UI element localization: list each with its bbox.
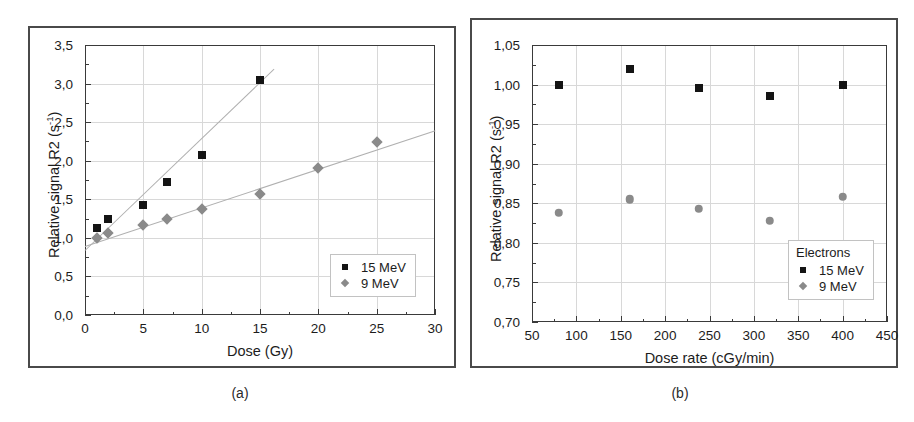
x-tick-label: 25 [369,321,384,336]
data-point-9-mev [625,195,634,204]
y-tick-label: 3,0 [54,76,73,91]
data-point-15-mev [766,92,774,100]
legend-title: Electrons [796,245,864,260]
y-tick-minor [532,65,536,66]
x-tick-label: 30 [427,321,442,336]
x-tick-minor [348,312,349,316]
x-tick-minor [687,319,688,323]
data-point-15-mev [139,201,147,209]
panel-a-plot-area: 0,00,51,01,52,02,53,03,5051015202530Dose… [30,28,454,366]
panel-a: 0,00,51,01,52,02,53,03,5051015202530Dose… [28,26,456,368]
caption-panel-b: (b) [671,385,688,401]
legend-item[interactable]: 9 MeV [338,275,406,291]
x-tick-major [85,309,86,315]
y-tick-minor [532,223,536,224]
legend-item[interactable]: 15 MeV [796,262,864,278]
y-axis-title: Relative signal R2 (s-1) [486,115,504,261]
y-tick-major [85,315,91,316]
x-tick-minor [406,312,407,316]
data-point-15-mev [839,81,847,89]
x-tick-major [754,316,755,322]
y-tick-major [85,238,91,239]
x-tick-label: 10 [194,321,209,336]
x-tick-major [798,316,799,322]
legend-label: 15 MeV [819,263,864,278]
y-tick-major [532,124,538,125]
legend-marker-icon [338,280,352,286]
x-tick-minor [231,312,232,316]
y-tick-major [532,45,538,46]
x-tick-label: 200 [654,328,677,343]
x-tick-minor [599,319,600,323]
y-tick-major [532,164,538,165]
x-tick-label: 350 [787,328,810,343]
y-tick-minor [85,296,89,297]
y-tick-major [532,203,538,204]
y-tick-label: 1,05 [494,38,520,53]
caption-panel-a: (a) [231,385,248,401]
y-tick-minor [532,184,536,185]
y-tick-label: 0,5 [54,269,73,284]
legend-label: 9 MeV [361,276,399,291]
legend-label: 9 MeV [819,279,857,294]
y-axis-title-superscript: -1 [44,117,55,125]
x-tick-minor [865,319,866,323]
data-point-15-mev [198,151,206,159]
figure-root: 0,00,51,01,52,02,53,03,5051015202530Dose… [0,0,914,422]
x-tick-major [665,316,666,322]
legend-marker-icon [338,264,352,270]
y-tick-label: 3,5 [54,38,73,53]
data-point-15-mev [256,76,264,84]
x-tick-label: 5 [140,321,148,336]
y-axis-title: Relative signal R2 (s-1) [44,112,62,258]
x-tick-label: 0 [81,321,89,336]
x-tick-minor [173,312,174,316]
y-tick-minor [532,302,536,303]
y-tick-minor [85,219,89,220]
data-point-9-mev [554,209,563,218]
data-point-9-mev [695,205,704,214]
y-tick-minor [85,64,89,65]
x-tick-major [435,309,436,315]
y-tick-major [532,243,538,244]
x-tick-major [887,316,888,322]
y-tick-major [85,45,91,46]
x-tick-major [843,316,844,322]
x-tick-major [202,309,203,315]
x-tick-label: 15 [252,321,267,336]
panel-b-plot-area: 0,700,750,800,850,900,951,001,0550100150… [472,20,896,366]
legend-marker-icon [796,267,810,273]
y-tick-major [532,85,538,86]
data-point-15-mev [93,224,101,232]
x-tick-label: 400 [831,328,854,343]
y-tick-major [85,161,91,162]
legend-item[interactable]: 15 MeV [338,259,406,275]
data-point-15-mev [555,81,563,89]
y-tick-minor [532,144,536,145]
legend-item[interactable]: 9 MeV [796,278,864,294]
x-tick-major [532,316,533,322]
data-point-15-mev [104,215,112,223]
x-tick-minor [289,312,290,316]
y-tick-label: 0,70 [494,315,520,330]
y-tick-major [85,276,91,277]
x-tick-major [576,316,577,322]
y-tick-minor [85,103,89,104]
y-tick-minor [85,257,89,258]
y-tick-minor [532,263,536,264]
y-axis-title-superscript: -1 [486,120,497,128]
y-tick-major [85,199,91,200]
x-tick-minor [732,319,733,323]
panel-b: 0,700,750,800,850,900,951,001,0550100150… [470,18,898,368]
legend: 15 MeV9 MeV [330,254,416,297]
legend-label: 15 MeV [361,260,406,275]
x-tick-label: 20 [311,321,326,336]
y-tick-major [532,322,538,323]
x-tick-label: 150 [609,328,632,343]
data-point-15-mev [695,84,703,92]
x-tick-major [621,316,622,322]
y-tick-minor [532,104,536,105]
legend: Electrons15 MeV9 MeV [788,240,874,300]
x-tick-minor [114,312,115,316]
y-tick-minor [85,141,89,142]
